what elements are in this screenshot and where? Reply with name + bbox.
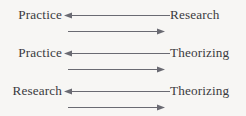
arrow-left-icon (64, 12, 170, 18)
right-node-label: Theorizing (170, 43, 246, 63)
arrow-left-icon (64, 50, 170, 56)
right-node-label: Research (170, 5, 246, 25)
right-node-label: Theorizing (170, 81, 246, 101)
arrow-right-icon (68, 28, 165, 34)
left-node-label: Practice (0, 43, 62, 63)
relation-row: Research Theorizing (0, 76, 246, 114)
arrow-left-icon (64, 88, 170, 94)
left-node-label: Practice (0, 5, 62, 25)
left-node-label: Research (0, 81, 62, 101)
relation-row: Practice Theorizing (0, 38, 246, 76)
relationship-diagram: Practice Research Practice (0, 0, 246, 116)
relation-row: Practice Research (0, 0, 246, 38)
arrow-right-icon (68, 104, 165, 110)
arrow-right-icon (68, 66, 165, 72)
